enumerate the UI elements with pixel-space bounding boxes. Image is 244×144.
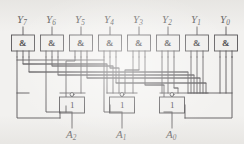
and-gate-symbol-y6: & xyxy=(48,39,56,48)
and-gate-symbol-y1: & xyxy=(193,39,201,48)
and-gate-symbol-y4: & xyxy=(106,39,114,48)
inverter-feed xyxy=(17,93,232,95)
inverter-bubbles xyxy=(70,93,174,97)
and-gate-symbol-y3: & xyxy=(135,39,143,48)
gate-output-legs xyxy=(17,51,232,57)
output-label-a1: A1 xyxy=(116,129,126,142)
input-label-y0: Y0 xyxy=(220,14,230,27)
input-label-y1: Y1 xyxy=(191,14,201,27)
input-label-y4: Y4 xyxy=(104,14,114,27)
and-gate-symbol-y5: & xyxy=(77,39,85,48)
output-label-a2: A2 xyxy=(66,129,76,142)
inverter-symbol-a0: 1 xyxy=(170,101,175,110)
input-label-y6: Y6 xyxy=(46,14,56,27)
and-gate-symbol-y2: & xyxy=(164,39,172,48)
inverter-symbol-a2: 1 xyxy=(70,101,75,110)
inverter-symbol-a1: 1 xyxy=(120,101,125,110)
figure-canvas: Y7 Y6 Y5 Y4 Y3 Y2 Y1 Y0 & & & & & & & & … xyxy=(0,0,244,144)
input-label-y2: Y2 xyxy=(162,14,172,27)
input-stubs xyxy=(23,27,226,35)
input-label-y3: Y3 xyxy=(133,14,143,27)
input-label-y7: Y7 xyxy=(17,14,27,27)
and-gate-symbol-y0: & xyxy=(222,39,230,48)
logic-diagram-svg xyxy=(0,0,244,144)
output-stems xyxy=(72,113,172,128)
bus-rails xyxy=(17,60,206,88)
and-gate-symbol-y7: & xyxy=(19,39,27,48)
output-label-a0: A0 xyxy=(166,129,176,142)
and-gate-bodies xyxy=(12,35,238,51)
input-label-y5: Y5 xyxy=(75,14,85,27)
